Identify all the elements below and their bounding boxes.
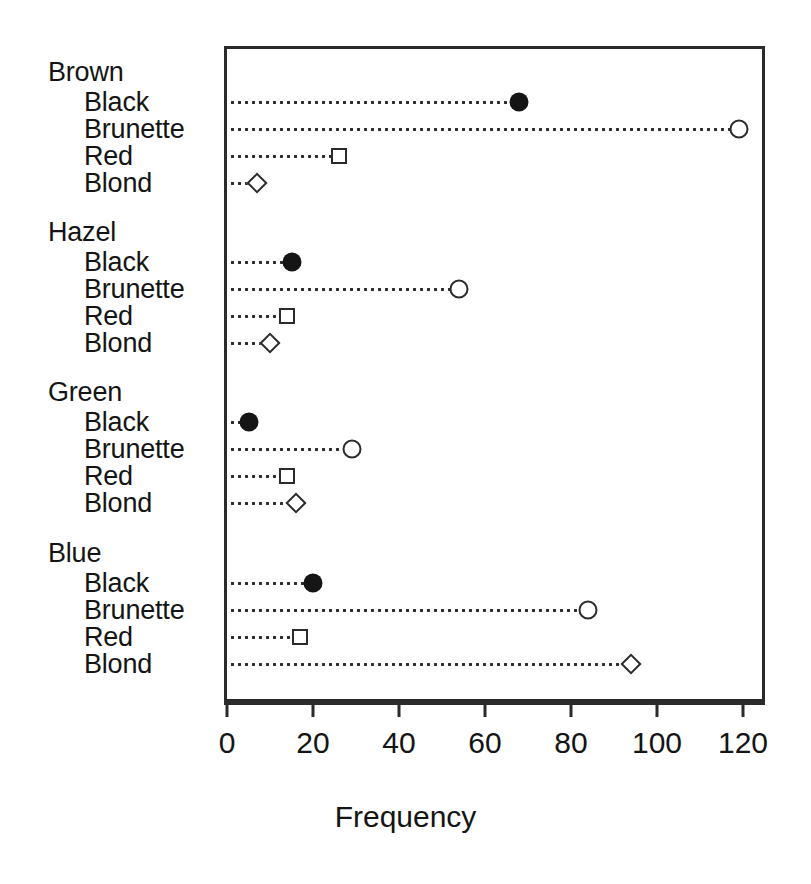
x-tick-label: 100	[632, 726, 682, 760]
leader-dotted-line	[224, 636, 300, 639]
category-label-blond: Blond	[84, 330, 152, 357]
leader-dotted-line	[224, 663, 631, 666]
leader-dotted-line	[224, 155, 339, 158]
data-point-marker-filled-circle	[304, 574, 323, 593]
data-point-marker-filled-circle	[239, 413, 258, 432]
category-label-blond: Blond	[84, 490, 152, 517]
data-point-marker-open-square	[331, 148, 347, 164]
leader-dotted-line	[224, 475, 287, 478]
leader-dotted-line	[224, 582, 313, 585]
dot-plot-figure: BrownBlackBrunetteRedBlondHazelBlackBrun…	[0, 0, 811, 884]
category-label-red: Red	[84, 624, 133, 651]
category-label-black: Black	[84, 249, 149, 276]
x-tick	[398, 702, 401, 717]
data-point-marker-open-square	[292, 629, 308, 645]
category-label-blond: Blond	[84, 651, 152, 678]
category-label-brunette: Brunette	[84, 276, 184, 303]
x-tick-label: 40	[382, 726, 415, 760]
data-point-marker-filled-circle	[282, 253, 301, 272]
category-label-black: Black	[84, 409, 149, 436]
category-label-brunette: Brunette	[84, 436, 184, 463]
data-point-marker-open-circle	[450, 280, 469, 299]
x-tick	[570, 702, 573, 717]
plot-area-frame	[224, 46, 765, 702]
x-tick-label: 20	[296, 726, 329, 760]
x-tick-label: 60	[468, 726, 501, 760]
group-label-blue: Blue	[48, 540, 101, 567]
x-tick	[312, 702, 315, 717]
leader-dotted-line	[224, 101, 519, 104]
leader-dotted-line	[224, 288, 459, 291]
x-tick	[226, 702, 229, 717]
leader-dotted-line	[224, 609, 588, 612]
data-point-marker-open-circle	[342, 440, 361, 459]
category-label-black: Black	[84, 89, 149, 116]
x-axis-title: Frequency	[0, 800, 811, 834]
group-label-green: Green	[48, 379, 122, 406]
group-label-hazel: Hazel	[48, 219, 116, 246]
data-point-marker-open-circle	[729, 120, 748, 139]
x-tick-label: 0	[219, 726, 236, 760]
data-point-marker-open-circle	[579, 601, 598, 620]
category-label-brunette: Brunette	[84, 116, 184, 143]
group-label-brown: Brown	[48, 59, 124, 86]
leader-dotted-line	[224, 448, 352, 451]
data-point-marker-filled-circle	[510, 93, 529, 112]
x-tick	[656, 702, 659, 717]
category-label-red: Red	[84, 463, 133, 490]
category-label-black: Black	[84, 570, 149, 597]
category-label-red: Red	[84, 143, 133, 170]
leader-dotted-line	[224, 315, 287, 318]
category-label-brunette: Brunette	[84, 597, 184, 624]
x-tick	[484, 702, 487, 717]
x-axis-line	[224, 702, 765, 705]
category-label-red: Red	[84, 303, 133, 330]
x-tick-label: 120	[718, 726, 768, 760]
x-tick-label: 80	[554, 726, 587, 760]
category-label-blond: Blond	[84, 170, 152, 197]
x-tick	[742, 702, 745, 717]
data-point-marker-open-square	[279, 308, 295, 324]
data-point-marker-open-square	[279, 468, 295, 484]
leader-dotted-line	[224, 128, 739, 131]
